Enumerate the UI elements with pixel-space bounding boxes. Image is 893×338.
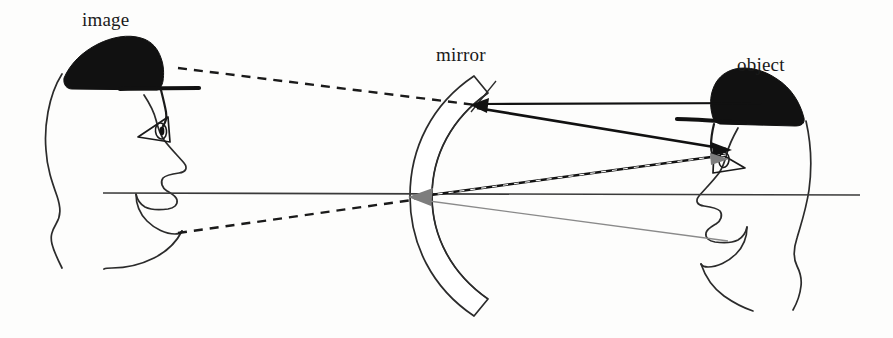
image-hat <box>64 36 164 90</box>
object-head-outline <box>793 121 811 310</box>
image-head-outline <box>46 74 62 268</box>
image-hat-brim <box>120 88 199 89</box>
reflected-ray-from-vertex <box>414 199 728 241</box>
object-hat <box>711 68 805 126</box>
incident-ray-parallel <box>481 103 762 104</box>
principal-axis <box>103 193 860 195</box>
reflected-ray-to-eye <box>477 108 726 149</box>
label-object: object <box>737 54 785 76</box>
virtual-ray-upper <box>178 68 476 105</box>
image-head <box>46 36 199 269</box>
virtual-ray-lower <box>178 200 412 233</box>
image-jaw-outline <box>136 194 182 234</box>
label-mirror: mirror <box>436 44 486 66</box>
ray-diagram-figure: image mirror object <box>0 0 893 338</box>
object-neck-outline <box>701 264 753 311</box>
incident-ray-to-vertex <box>416 155 726 197</box>
image-neck-outline <box>104 231 182 269</box>
image-pupil <box>160 127 165 136</box>
label-image: image <box>82 9 129 31</box>
object-head <box>677 68 811 311</box>
object-jaw-outline <box>701 227 747 267</box>
